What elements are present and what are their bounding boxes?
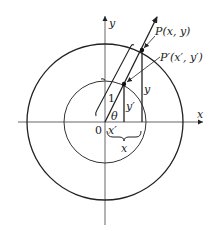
origin-label: 0 bbox=[95, 124, 102, 137]
unit-radius-label: 1 bbox=[108, 92, 115, 105]
point-p-prime bbox=[122, 82, 126, 86]
point-p bbox=[140, 48, 144, 52]
x-prime-label: x′ bbox=[108, 124, 117, 137]
unit-circle-diagram: y x P(x, y) P′(x′, y′) 0 1 θ y′ y x′ x bbox=[0, 0, 215, 231]
y-prime-label: y′ bbox=[125, 100, 135, 113]
point-p-label: P(x, y) bbox=[154, 25, 190, 38]
unit-length-tick bbox=[101, 79, 105, 80]
y-axis-label: y bbox=[108, 17, 116, 30]
y-label: y bbox=[143, 83, 151, 96]
theta-label: θ bbox=[111, 110, 118, 123]
point-p-prime-label: P′(x′, y′) bbox=[159, 51, 203, 64]
x-label: x bbox=[121, 142, 128, 155]
x-axis-label: x bbox=[197, 108, 204, 121]
leader-p bbox=[144, 36, 155, 48]
leader-p-prime bbox=[127, 57, 160, 82]
